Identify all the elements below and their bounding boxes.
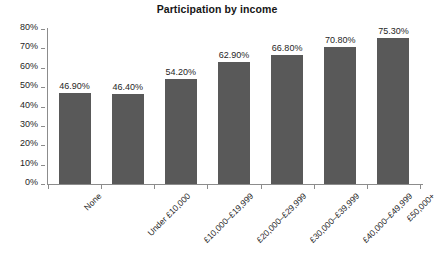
bar-rect [324, 47, 356, 184]
x-axis-tick-mark [154, 185, 155, 189]
bar[interactable]: 70.80% [324, 29, 356, 184]
y-axis-tick-label: 10% [20, 158, 38, 168]
bar-rect [218, 62, 250, 184]
bar-rect [271, 55, 303, 184]
x-axis-category-label: Under £10,000 [145, 191, 192, 238]
plot-area: 46.90%46.40%54.20%62.90%66.80%70.80%75.3… [48, 29, 420, 184]
bar-value-label: 75.30% [353, 26, 433, 36]
bar-chart: Participation by income 0%10%20%30%40%50… [0, 0, 434, 261]
bar-value-label: 46.40% [88, 82, 168, 92]
bar-value-label: 70.80% [300, 35, 380, 45]
x-axis-tick-mark [367, 185, 368, 189]
chart-title: Participation by income [0, 3, 434, 15]
bar-rect [112, 94, 144, 184]
y-axis-tick-mark [41, 165, 45, 166]
bar-rect [59, 93, 91, 184]
x-axis-tick-mark [101, 185, 102, 189]
x-axis-tick-mark [314, 185, 315, 189]
bar-value-label: 54.20% [141, 67, 221, 77]
x-axis-category-label: £20,000–£29,999 [254, 191, 308, 245]
bar[interactable]: 46.90% [59, 29, 91, 184]
y-axis-tick-mark [41, 107, 45, 108]
x-axis-tick-mark [261, 185, 262, 189]
bar[interactable]: 66.80% [271, 29, 303, 184]
x-axis-category-label: None [82, 191, 103, 212]
y-axis-tick-label: 60% [20, 61, 38, 71]
y-axis-tick-label: 80% [20, 22, 38, 32]
bar-rect [165, 79, 197, 184]
y-axis-tick-label: 40% [20, 100, 38, 110]
x-axis-category-label: £30,000–£39,999 [308, 191, 362, 245]
x-axis-tick-mark [207, 185, 208, 189]
y-axis-tick-mark [41, 145, 45, 146]
y-axis-tick-mark [41, 68, 45, 69]
y-axis-tick-label: 0% [25, 177, 38, 187]
bar-rect [377, 38, 409, 184]
y-axis-tick-mark [41, 29, 45, 30]
y-axis-tick-mark [41, 48, 45, 49]
y-axis-tick-mark [41, 184, 45, 185]
x-axis-category-label: £10,000–£19,999 [201, 191, 255, 245]
bar[interactable]: 46.40% [112, 29, 144, 184]
y-axis-tick-label: 20% [20, 138, 38, 148]
y-axis-tick-label: 70% [20, 41, 38, 51]
bar[interactable]: 75.30% [377, 29, 409, 184]
y-axis-tick-label: 30% [20, 119, 38, 129]
y-axis-tick-mark [41, 126, 45, 127]
bar[interactable]: 62.90% [218, 29, 250, 184]
bar[interactable]: 54.20% [165, 29, 197, 184]
x-axis-tick-mark [420, 185, 421, 189]
x-axis-tick-mark [48, 185, 49, 189]
